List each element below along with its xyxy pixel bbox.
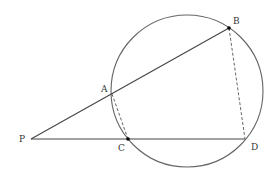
chord-bd-dashed bbox=[229, 28, 245, 139]
point-c-dot bbox=[126, 137, 130, 141]
circle bbox=[111, 15, 263, 167]
diagram-svg: P A B C D bbox=[0, 0, 276, 182]
chord-ac-dashed bbox=[112, 94, 128, 139]
label-a: A bbox=[100, 84, 108, 94]
point-b-dot bbox=[227, 26, 231, 30]
geometry-diagram: P A B C D bbox=[0, 0, 276, 182]
label-d: D bbox=[251, 142, 258, 152]
label-p: P bbox=[19, 134, 25, 144]
label-b: B bbox=[233, 16, 240, 26]
label-c: C bbox=[118, 143, 125, 153]
secant-pb bbox=[31, 28, 229, 139]
